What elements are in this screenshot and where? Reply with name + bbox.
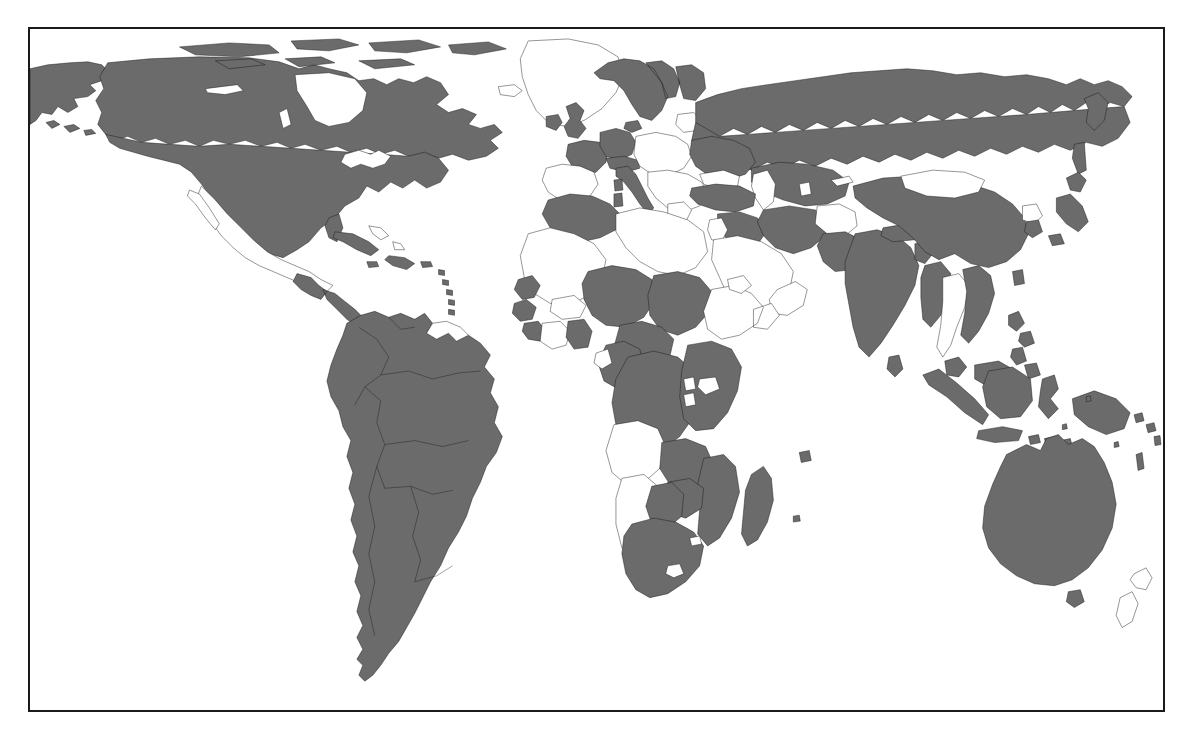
region-papua-new-guinea [1072,391,1130,435]
region-puerto-rico [421,262,433,268]
region-indonesia-borneo [983,367,1033,419]
region-united-states [106,134,449,257]
region-senegal-guinea [512,276,540,322]
region-central-europe-unshaded [634,132,692,176]
region-ghana-togo-benin [566,319,592,349]
region-denmark [624,120,642,132]
region-tasmania [1066,590,1084,608]
region-jamaica [367,262,379,268]
region-iceland [498,85,522,97]
region-india [845,230,919,357]
region-lesser-antilles [439,270,455,316]
region-cuba [333,232,379,256]
region-laos-vietnam-cambodia [961,266,995,344]
region-hispaniola [385,256,415,270]
region-south-america-shaded [327,311,502,681]
region-reunion [793,515,800,522]
region-alaska [30,62,110,125]
region-canada-arctic-islands [179,39,506,69]
region-swaziland [690,536,702,546]
region-libya-egypt [616,208,708,276]
region-sudan [648,272,712,336]
region-south-africa [622,518,704,598]
region-taiwan [1013,270,1025,286]
screenshot-root [0,0,1184,729]
region-mauritius [799,451,811,463]
lake-aral [799,182,811,196]
region-solomon-islands [1134,413,1156,433]
region-indonesia-sulawesi [1038,375,1058,419]
region-japan [1048,172,1088,246]
region-new-zealand [1116,568,1152,628]
region-australia [983,435,1117,586]
region-nigeria-niger-chad [582,266,656,328]
region-aleutians [46,120,96,135]
region-turkey [690,184,756,212]
map-frame [28,27,1165,712]
region-sardinia-corsica [614,179,623,207]
region-madagascar [741,466,773,546]
world-map-svg [30,29,1163,710]
region-mozambique [698,455,740,546]
region-indonesia-java [977,427,1023,443]
region-cote-divoire [540,321,570,349]
region-sri-lanka [887,355,903,377]
region-benelux-germany [600,128,636,160]
region-angola [606,421,666,485]
region-sakhalin [1072,142,1086,174]
region-vanuatu-fiji [1136,436,1161,471]
